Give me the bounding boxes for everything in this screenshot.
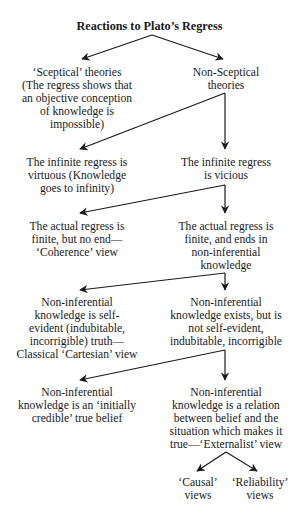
- arrow-title-to-non-sceptical: [152, 35, 223, 59]
- arrow-nonsceptical-to-virtuous: [80, 93, 225, 149]
- arrows-layer: [0, 0, 299, 517]
- arrow-ends-to-cartesian: [80, 273, 225, 290]
- arrow-not-self-evident-to-credible: [80, 350, 225, 380]
- arrow-externalist-to-causal: [197, 452, 226, 471]
- arrow-vicious-to-coherence: [80, 185, 225, 213]
- arrow-externalist-to-reliability: [226, 452, 257, 471]
- arrow-title-to-sceptical: [82, 35, 152, 59]
